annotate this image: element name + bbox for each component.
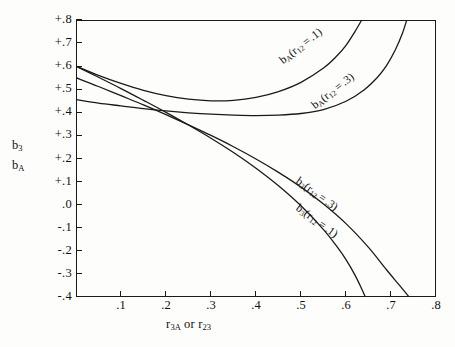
y-axis-tick-mark (76, 158, 82, 159)
x-axis-tick-label: .1 (106, 299, 136, 312)
y-axis-tick-mark (76, 227, 82, 228)
y-axis-tick-mark (76, 89, 82, 90)
y-axis-tick-mark (76, 135, 82, 136)
curve-b3-r12-1- (76, 78, 409, 297)
x-axis-tick-mark (435, 291, 436, 297)
y-axis-tick-label: .0 (26, 198, 72, 210)
y-axis-tick-mark (76, 66, 82, 67)
y-axis-title-ba: bA (12, 157, 46, 177)
y-axis-tick-mark (76, 204, 82, 205)
x-axis-tick-label: .5 (286, 299, 316, 312)
x-axis-tick-label: .2 (151, 299, 181, 312)
y-axis-tick-mark (76, 181, 82, 182)
y-axis-tick-label: +.5 (26, 82, 72, 94)
x-axis-tick-label: .4 (241, 299, 271, 312)
y-axis-tick-mark (76, 296, 82, 297)
x-axis-tick-label: .8 (421, 299, 451, 312)
y-axis-title: b3 bA (12, 137, 46, 177)
y-axis-tick-mark (76, 112, 82, 113)
x-axis-tick-mark (255, 291, 256, 297)
y-axis-tick-label: -.1 (26, 221, 72, 233)
x-axis-title: r3A or r23 (166, 317, 211, 332)
y-axis-tick-label: +.8 (26, 13, 72, 25)
x-axis-tick-mark (165, 291, 166, 297)
x-axis-tick-mark (210, 291, 211, 297)
x-axis-tick-label: .7 (376, 299, 406, 312)
x-axis-tick-mark (345, 291, 346, 297)
x-axis-tick-label: .3 (196, 299, 226, 312)
y-axis-tick-mark (76, 19, 82, 20)
y-axis-tick-mark (76, 42, 82, 43)
x-axis-tick-label: .6 (331, 299, 361, 312)
y-axis-title-b3: b3 (12, 137, 46, 157)
y-axis-tick-mark (76, 273, 82, 274)
curve-ba-r12-3- (76, 20, 407, 116)
curve-layer (76, 20, 436, 297)
y-axis-tick-label: -.4 (26, 290, 72, 302)
y-axis-tick-label: -.2 (26, 244, 72, 256)
x-axis-tick-mark (300, 291, 301, 297)
y-axis-tick-mark (76, 250, 82, 251)
y-axis-tick-label: +.4 (26, 105, 72, 117)
x-axis-tick-mark (390, 291, 391, 297)
y-axis-tick-label: -.3 (26, 267, 72, 279)
x-axis-tick-mark (120, 291, 121, 297)
y-axis-tick-label: +.7 (26, 36, 72, 48)
y-axis-tick-label: +.6 (26, 59, 72, 71)
figure-canvas: +.8+.7+.6+.5+.4+.3+.2+.1.0-.1-.2-.3-.4 .… (0, 0, 455, 347)
curves-svg (76, 20, 436, 297)
